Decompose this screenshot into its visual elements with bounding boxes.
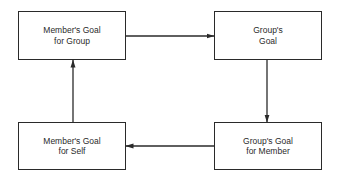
node-groups-goal-for-member: Group's Goal for Member: [214, 122, 322, 170]
node-label-line2: for Self: [59, 146, 86, 157]
node-label-line1: Member's Goal: [43, 25, 100, 36]
node-label-line1: Member's Goal: [43, 136, 100, 147]
node-groups-goal: Group's Goal: [214, 11, 322, 60]
node-members-goal-for-group: Member's Goal for Group: [18, 11, 126, 60]
goal-cycle-diagram: Member's Goal for Group Group's Goal Gro…: [0, 0, 338, 179]
node-label-line1: Group's Goal: [243, 136, 293, 147]
node-label-line1: Group's: [253, 25, 283, 36]
node-label-line2: for Group: [54, 36, 90, 47]
node-members-goal-for-self: Member's Goal for Self: [18, 122, 126, 170]
node-label-line2: Goal: [259, 36, 277, 47]
node-label-line2: for Member: [246, 146, 289, 157]
